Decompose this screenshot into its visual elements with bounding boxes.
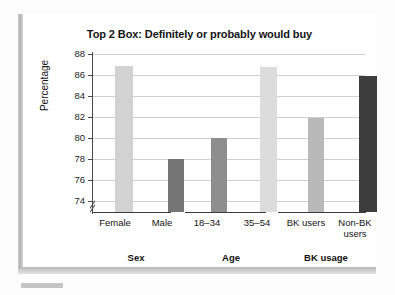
y-tick-label-86: 86 (41, 69, 85, 80)
bar-chart: Top 2 Box: Definitely or probably would … (23, 14, 376, 267)
bar-bk-users (308, 118, 324, 212)
bar-non-bk-users (359, 76, 377, 212)
scanned-page: Top 2 Box: Definitely or probably would … (0, 0, 395, 295)
group-label-age: Age (186, 252, 276, 263)
y-tick-label-80: 80 (41, 132, 85, 143)
bar-label-non-bk-users: Non-BK users (329, 217, 381, 239)
y-tick-label-76: 76 (41, 174, 85, 185)
bar-female (115, 66, 133, 212)
bar-label-18-34: 18–34 (179, 217, 235, 228)
y-tick-label-82: 82 (41, 111, 85, 122)
chart-title: Top 2 Box: Definitely or probably would … (23, 28, 376, 40)
bar-18-34 (211, 138, 227, 212)
scan-margin-mark (21, 283, 63, 288)
bar-35-54 (260, 67, 277, 212)
y-tick-label-78: 78 (41, 153, 85, 164)
y-tick-label-88: 88 (41, 48, 85, 59)
group-label-bk-usage: BK usage (281, 252, 371, 263)
y-tick-label-84: 84 (41, 90, 85, 101)
bar-label-bk-users: BK users (275, 217, 337, 228)
plot-area (93, 54, 365, 212)
bar-label-non-bk-line1: Non-BK (338, 217, 371, 228)
bar-male (168, 159, 184, 212)
x-axis-line (93, 212, 366, 213)
scan-edge-bottom (18, 267, 376, 274)
y-tick-label-74: 74 (41, 195, 85, 206)
bar-label-non-bk-line2: users (343, 228, 366, 239)
group-label-sex: Sex (91, 252, 181, 263)
y-axis-title: Percentage (39, 31, 50, 141)
